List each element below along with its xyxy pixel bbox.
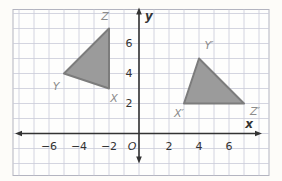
- figure-svg: XYZX′Y′Z′xyO−6−4−2246246: [0, 0, 282, 181]
- x-tick-label: 6: [226, 140, 233, 153]
- x-tick-label: −6: [41, 140, 57, 153]
- vertex-label-X-prime: X′: [173, 107, 185, 120]
- y-tick-label: 6: [126, 37, 133, 50]
- vertex-label-Y-prime: Y′: [204, 39, 214, 52]
- x-axis-label: x: [244, 117, 254, 131]
- origin-label: O: [128, 140, 137, 153]
- vertex-label-X: X: [109, 92, 118, 105]
- x-tick-label: −4: [71, 140, 87, 153]
- vertex-label-Z: Z: [100, 10, 109, 23]
- coordinate-plane-figure: XYZX′Y′Z′xyO−6−4−2246246: [0, 0, 282, 181]
- y-axis-label: y: [145, 9, 154, 23]
- y-tick-label: 2: [126, 97, 133, 110]
- x-tick-label: 4: [196, 140, 203, 153]
- x-tick-label: −2: [101, 140, 117, 153]
- y-tick-label: 4: [126, 67, 133, 80]
- x-tick-label: 2: [166, 140, 173, 153]
